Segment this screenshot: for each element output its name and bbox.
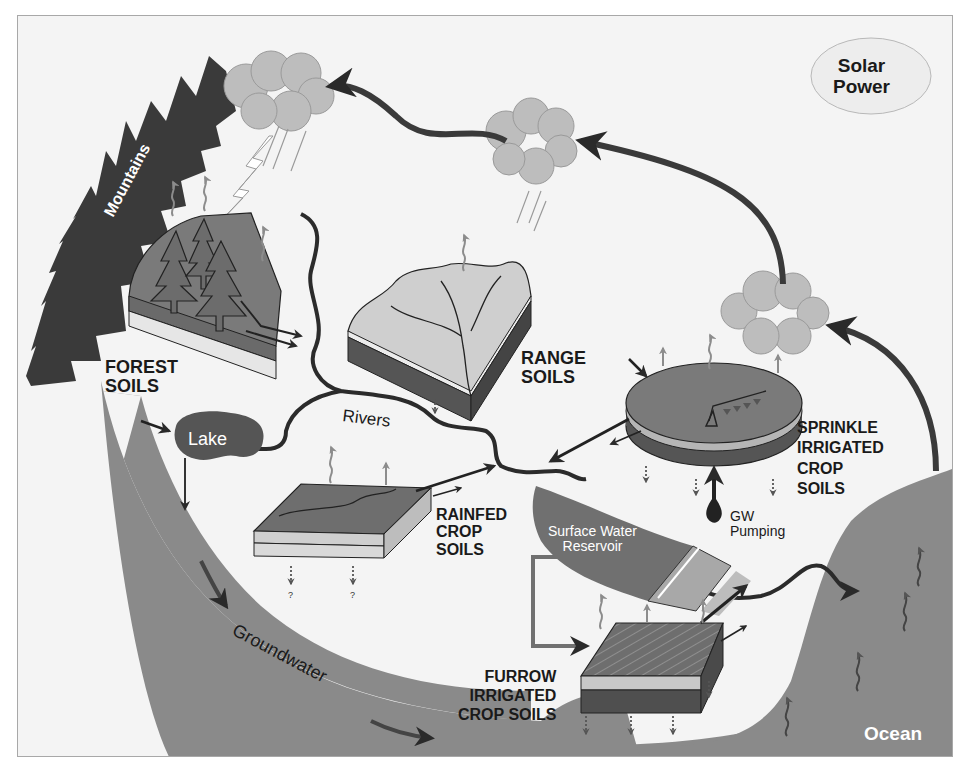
pump-drop-icon (706, 496, 722, 523)
diagram-frame: Mountains (17, 15, 953, 757)
furrow-irrigated-crop-soils-label: FURROW IRRIGATED CROP SOILS (458, 668, 556, 725)
arrow-cloud-right-to-middle (581, 141, 783, 284)
forest-soils-label: FOREST SOILS (105, 358, 178, 397)
range-soils-block (348, 262, 531, 421)
lightning-icon (216, 136, 273, 226)
solar-power-label: Solar Power (833, 56, 890, 97)
range-soils-label: RANGE SOILS (521, 349, 586, 388)
gw-pumping-label: GW Pumping (730, 509, 785, 539)
percolation-unknown-1: ? (288, 590, 293, 600)
rainfed-crop-soils-label: RAINFED CROP SOILS (436, 506, 507, 558)
rivers-label: Rivers (342, 406, 392, 431)
percolation-unknown-2: ? (350, 590, 355, 600)
furrow-irrigated-block (581, 586, 746, 713)
surface-water-reservoir-label: Surface Water Reservoir (548, 524, 637, 554)
sprinkle-irrigated-block (551, 359, 802, 523)
lake-label: Lake (188, 430, 227, 449)
cloud-left (224, 51, 334, 131)
cloud-right (721, 271, 829, 354)
arrow-cloud-middle-to-left (331, 85, 506, 141)
ocean-label: Ocean (864, 724, 922, 745)
sprinkle-irrigated-crop-soils-label: SPRINKLE IRRIGATED CROP SOILS (797, 418, 884, 500)
